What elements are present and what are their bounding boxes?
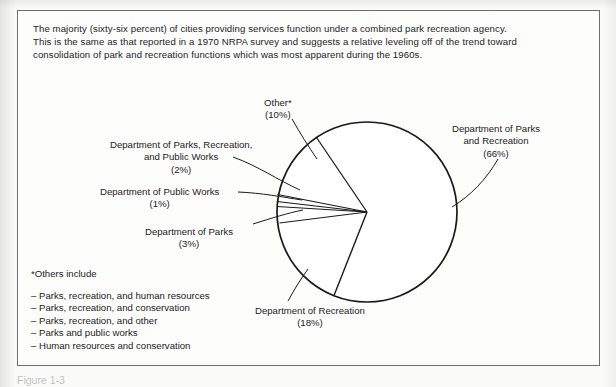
slice-label-public-works: Department of Public Works (1%) — [100, 186, 219, 211]
slice-label-drec-name: Department of Recreation — [255, 305, 365, 316]
footnote-item: – Parks and public works — [31, 327, 210, 340]
slice-label-dprpw-name-2: and Public Works — [110, 151, 252, 163]
slice-label-other-name: Other* — [264, 97, 292, 108]
slice-label-parks-recreation-public-works: Department of Parks, Recreation, and Pub… — [110, 139, 252, 176]
scanned-page: The majority (sixty-six percent) of citi… — [0, 0, 616, 387]
slice-label-dpr-name-1: Department of Parks — [452, 123, 540, 134]
slice-label-dpw-pct: (1%) — [100, 198, 219, 210]
slice-label-dprpw-pct: (2%) — [110, 164, 252, 176]
slice-label-parks: Department of Parks (3%) — [145, 226, 233, 251]
slice-label-drec-pct: (18%) — [255, 317, 365, 329]
slice-label-dp-name: Department of Parks — [145, 226, 233, 237]
intro-line-3: consolidation of park and recreation fun… — [33, 48, 581, 61]
slice-label-other-pct: (10%) — [264, 109, 292, 121]
footnote-list: – Parks, recreation, and human resources… — [31, 290, 210, 353]
figure-caption: Figure 1-3 — [17, 374, 65, 387]
intro-paragraph: The majority (sixty-six percent) of citi… — [33, 22, 581, 61]
slice-label-recreation: Department of Recreation (18%) — [255, 305, 365, 330]
footnote-item: – Parks, recreation, and conservation — [31, 302, 210, 315]
slice-label-other: Other* (10%) — [264, 97, 292, 122]
footnote-block: *Others include – Parks, recreation, and… — [31, 268, 210, 353]
slice-label-dpr-pct: (66%) — [452, 148, 540, 160]
slice-label-dp-pct: (3%) — [145, 238, 233, 250]
intro-line-1: The majority (sixty-six percent) of citi… — [33, 22, 581, 35]
footnote-item: – Parks, recreation, and human resources — [31, 290, 210, 303]
slice-label-dpw-name: Department of Public Works — [100, 186, 219, 197]
footnote-title: *Others include — [31, 268, 210, 281]
slice-label-parks-and-recreation: Department of Parks and Recreation (66%) — [452, 123, 540, 160]
slice-label-dpr-name-2: and Recreation — [452, 135, 540, 147]
footnote-item: – Parks, recreation, and other — [31, 315, 210, 328]
footnote-item: – Human resources and conservation — [31, 340, 210, 353]
intro-line-2: This is the same as that reported in a 1… — [33, 35, 581, 48]
slice-label-dprpw-name-1: Department of Parks, Recreation, — [110, 139, 252, 150]
